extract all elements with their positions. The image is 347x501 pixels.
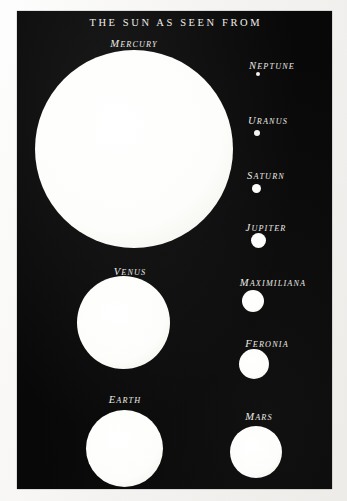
page-title: THE SUN AS SEEN FROM	[17, 17, 332, 28]
sun-disc-neptune	[256, 72, 260, 76]
sun-disc-mercury	[35, 50, 233, 248]
sun-disc-saturn	[252, 184, 261, 193]
sun-disc-uranus	[254, 130, 260, 136]
body-label-mars: Mars	[102, 411, 333, 422]
body-label-neptune: Neptune	[115, 60, 333, 71]
body-label-saturn: Saturn	[109, 170, 333, 181]
body-label-jupiter: Jupiter	[109, 222, 333, 233]
sun-disc-venus	[77, 276, 170, 369]
sun-disc-jupiter	[251, 233, 266, 248]
body-label-feronia: Feronia	[110, 338, 333, 349]
body-label-venus: Venus	[17, 266, 288, 277]
sun-disc-feronia	[239, 349, 269, 379]
body-label-uranus: Uranus	[111, 115, 333, 126]
body-label-earth: Earth	[17, 394, 283, 405]
body-label-maximiliana: Maximiliana	[116, 277, 333, 288]
sun-disc-mars	[230, 426, 282, 478]
astronomical-plate: THE SUN AS SEEN FROM MercuryVenusEarthNe…	[17, 11, 332, 489]
sun-disc-maximiliana	[242, 290, 264, 312]
body-label-mercury: Mercury	[17, 38, 292, 49]
